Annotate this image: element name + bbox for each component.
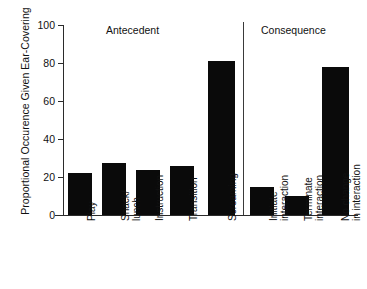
x-tick-label-line2: interaction [279,175,290,221]
bar-chart-figure: Proportional Occurence Given Ear-Coverin… [0,0,367,289]
x-tick-label-line1: No change [340,173,351,221]
y-tick-mark [58,177,63,178]
y-tick-mark [58,63,63,64]
y-tick-mark [58,215,63,216]
x-tick-label-line1: Terminate [303,177,314,221]
y-tick-mark [58,25,63,26]
group-header-antecedent: Antecedent [106,24,159,36]
x-tick-label-line1: Initiate [268,192,279,221]
y-tick-label: 100 [37,19,55,31]
x-tick-label-line1: Play [86,202,97,221]
x-tick-label: Screaming [227,173,238,221]
x-tick-label-line1: Snack/ [120,190,131,221]
x-tick-label-line1: Transition [188,177,199,221]
group-divider-line [243,22,244,215]
y-tick-label: 60 [43,95,55,107]
y-tick-label: 20 [43,171,55,183]
y-axis-title: Proportional Occurence Given Ear-Coverin… [19,0,31,224]
y-tick-label: 0 [49,209,55,221]
x-tick-label-line2: in interaction [351,164,362,221]
x-tick-label-line2: interaction [314,175,325,221]
x-tick-label: Initiate interaction [268,175,290,221]
x-tick-label: Snack/ lunch [120,190,142,221]
y-tick-label: 40 [43,133,55,145]
y-tick-label: 80 [43,57,55,69]
group-header-consequence: Consequence [261,24,326,36]
x-tick-label-line1: Instruction [154,175,165,221]
y-axis-line [63,25,64,215]
x-tick-label-line1: Screaming [227,173,238,221]
x-tick-label: Transition [188,177,199,221]
x-tick-label: No change in interaction [340,164,362,221]
x-tick-label-line2: lunch [131,190,142,221]
y-tick-mark [58,139,63,140]
x-tick-label: Terminate interaction [303,175,325,221]
x-tick-label: Play [86,202,97,221]
x-tick-label: Instruction [154,175,165,221]
plot-area: 0 20 40 60 80 100 Antecedent Consequence [63,25,358,215]
y-tick-mark [58,101,63,102]
